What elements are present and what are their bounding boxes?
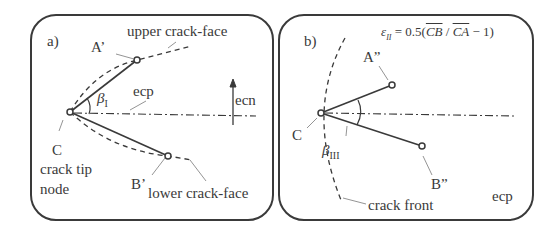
label-A-prime: A’ [91, 40, 105, 55]
node-B [419, 143, 425, 149]
ecp-axis [74, 113, 256, 116]
panel-a-tag: a) [47, 34, 59, 49]
upper-crack-face-curve [70, 46, 192, 112]
label-C-a: C [52, 143, 62, 158]
label-ecp-a: ecp [133, 84, 154, 99]
label-beta-I: βI [97, 91, 108, 109]
panel-b-leaders [307, 66, 432, 204]
node-B [165, 153, 171, 159]
node-A [134, 57, 140, 63]
label-crack-tip: crack tip [40, 162, 92, 177]
beta-III-arc [357, 100, 361, 125]
label-beta-III: βIII [322, 143, 339, 161]
node-A [389, 82, 395, 88]
lower-crack-face-curve [70, 112, 192, 160]
label-B-double: B” [431, 177, 448, 192]
label-ecp-b: ecp [492, 189, 513, 204]
ecp-axis [325, 113, 514, 116]
segment-CB [321, 113, 422, 146]
label-crack-front: crack front [368, 198, 433, 213]
label-ecn: ecn [235, 93, 256, 108]
segment-CB [70, 112, 168, 156]
node-C [318, 110, 324, 116]
panel-a-geometry [67, 46, 256, 160]
formula-epsilon: εII = 0.5(CB / CA − 1) [381, 25, 494, 42]
beta-I-arc [87, 98, 90, 114]
label-B-prime: B’ [131, 177, 146, 192]
panel-b-geometry [318, 38, 514, 200]
label-upper-crack-face: upper crack-face [127, 24, 227, 39]
panel-b-tag: b) [304, 34, 317, 49]
label-node: node [40, 182, 69, 197]
label-lower-crack-face: lower crack-face [148, 186, 248, 201]
ecn-arrowhead [230, 79, 236, 87]
segment-CA [321, 85, 392, 113]
label-C-b: C [292, 128, 302, 143]
label-A-double: A” [363, 50, 381, 65]
node-C [67, 109, 73, 115]
